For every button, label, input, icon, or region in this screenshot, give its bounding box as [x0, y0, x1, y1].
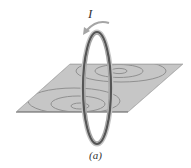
- diagram-canvas: [0, 0, 191, 168]
- figure-caption: (a): [0, 149, 191, 161]
- current-loop-diagram: I (a): [0, 0, 191, 168]
- current-label: I: [88, 6, 92, 22]
